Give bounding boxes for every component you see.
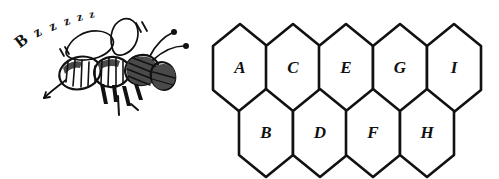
illustration-svg: B z z z z z (0, 0, 499, 179)
hex-label-F: F (366, 123, 379, 142)
honeycomb-diagram: A C E G I B D F H (213, 24, 481, 177)
hex-label-E: E (339, 58, 351, 77)
hex-label-C: C (287, 58, 299, 77)
hex-label-G: G (394, 58, 407, 77)
hex-label-H: H (419, 123, 434, 142)
illustration-canvas: B z z z z z (0, 0, 499, 179)
hex-label-B: B (259, 123, 271, 142)
hex-label-A: A (233, 58, 245, 77)
hex-label-D: D (313, 123, 326, 142)
